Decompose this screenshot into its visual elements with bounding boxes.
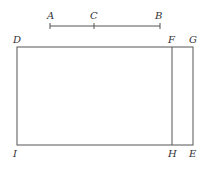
label-b: B — [154, 10, 162, 21]
rectangle-dgei: D F G I H E — [12, 34, 197, 159]
label-g: G — [189, 34, 197, 45]
label-e: E — [188, 148, 197, 159]
segment-acb: A C B — [46, 10, 162, 29]
geometry-diagram: A C B D F G I H E — [0, 0, 210, 169]
label-h: H — [167, 148, 177, 159]
label-f: F — [167, 34, 176, 45]
outer-rectangle — [17, 47, 193, 145]
label-a: A — [46, 10, 54, 21]
label-c: C — [90, 10, 98, 21]
label-d: D — [12, 34, 21, 45]
label-i: I — [12, 148, 18, 159]
